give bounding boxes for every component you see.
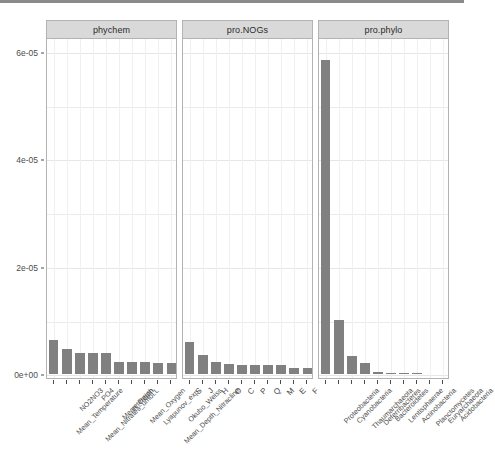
x-axis-tick-mark (157, 380, 158, 384)
facet-strip-header: pro.NOGs (182, 20, 313, 39)
gridline-vertical (171, 39, 172, 378)
x-axis-tick-label: F (311, 386, 321, 396)
x-axis-tick-mark (306, 380, 307, 384)
bar (276, 365, 286, 374)
facet-strip-label: phychem (93, 25, 130, 35)
bar (127, 362, 137, 374)
bar (211, 362, 221, 374)
x-axis-tick-mark (118, 380, 119, 384)
gridline-vertical (106, 39, 107, 378)
facet-strip-label: pro.NOGs (227, 25, 268, 35)
x-axis-tick-mark (293, 380, 294, 384)
x-axis-tick-mark (364, 380, 365, 384)
x-axis-tick-mark (79, 380, 80, 384)
facet-panel-body (318, 39, 449, 379)
x-axis-tick-mark (170, 380, 171, 384)
x-axis-tick-mark (92, 380, 93, 384)
gridline-vertical (190, 39, 191, 378)
gridline-vertical (307, 39, 308, 378)
x-axis-tick-mark (241, 380, 242, 384)
gridline-vertical (67, 39, 68, 378)
facet-panel-body (182, 39, 313, 379)
bar (303, 368, 313, 374)
facet-strip-label: pro.phylo (365, 25, 403, 35)
x-axis-tick-mark (429, 380, 430, 384)
bar (140, 362, 150, 374)
gridline-vertical (430, 39, 431, 378)
x-axis-tick-label: M (285, 386, 296, 397)
gridline-vertical (158, 39, 159, 378)
bar (347, 356, 357, 374)
bar (62, 349, 72, 374)
bar (167, 363, 177, 374)
gridline-vertical (268, 39, 269, 378)
gridline-vertical (145, 39, 146, 378)
x-axis-tick-mark (325, 380, 326, 384)
x-axis-tick-mark (254, 380, 255, 384)
x-axis-tick-mark (53, 380, 54, 384)
bar (224, 364, 234, 374)
gridline-vertical (54, 39, 55, 378)
x-axis-tick-mark (338, 380, 339, 384)
x-axis-tick-mark (442, 380, 443, 384)
bar (250, 365, 260, 374)
x-axis-tick-mark (189, 380, 190, 384)
bar (101, 353, 111, 374)
x-axis-tick-mark (416, 380, 417, 384)
bar (153, 363, 163, 374)
bar (289, 368, 299, 374)
facet-panel-body (46, 39, 177, 379)
y-axis-tick-mark (41, 53, 44, 54)
y-axis (0, 0, 44, 474)
x-axis-tick-mark (202, 380, 203, 384)
bar (75, 353, 85, 374)
x-axis-tick-label: Q (272, 386, 283, 397)
gridline-vertical (365, 39, 366, 378)
gridline-vertical (281, 39, 282, 378)
gridline-vertical (229, 39, 230, 378)
gridline-vertical (119, 39, 120, 378)
bar (373, 372, 383, 374)
gridline-vertical (80, 39, 81, 378)
bar (334, 320, 344, 374)
gridline-vertical (132, 39, 133, 378)
y-axis-tick-label: 0e+00 (14, 370, 38, 380)
facet-strip-header: pro.phylo (318, 20, 449, 39)
bar (185, 342, 195, 374)
x-axis-tick-mark (131, 380, 132, 384)
x-axis-tick-mark (267, 380, 268, 384)
x-axis-tick-mark (280, 380, 281, 384)
x-axis-tick-mark (144, 380, 145, 384)
x-axis-tick-mark (377, 380, 378, 384)
gridline-vertical (378, 39, 379, 378)
x-axis-tick-mark (351, 380, 352, 384)
gridline-vertical (352, 39, 353, 378)
gridline-vertical (93, 39, 94, 378)
x-axis-tick-mark (66, 380, 67, 384)
gridline-vertical (216, 39, 217, 378)
x-axis-tick-label: J (206, 386, 215, 395)
bar (263, 365, 273, 374)
bar (399, 373, 409, 374)
bar (386, 373, 396, 374)
x-axis-tick-mark (105, 380, 106, 384)
gridline-vertical (404, 39, 405, 378)
bar (360, 363, 370, 374)
gridline-vertical (417, 39, 418, 378)
gridline-vertical (443, 39, 444, 378)
bar (88, 353, 98, 374)
gridline-vertical (294, 39, 295, 378)
x-axis-tick-mark (215, 380, 216, 384)
y-axis-tick-mark (41, 375, 44, 376)
y-axis-tick-label: 4e-05 (16, 155, 38, 165)
gridline-vertical (203, 39, 204, 378)
y-axis-tick-label: 2e-05 (16, 263, 38, 273)
facet-strip-header: phychem (46, 20, 177, 39)
bar (412, 373, 422, 374)
bar (198, 355, 208, 374)
y-axis-tick-mark (41, 268, 44, 269)
x-axis-tick-mark (403, 380, 404, 384)
bar (49, 340, 59, 374)
gridline-vertical (255, 39, 256, 378)
